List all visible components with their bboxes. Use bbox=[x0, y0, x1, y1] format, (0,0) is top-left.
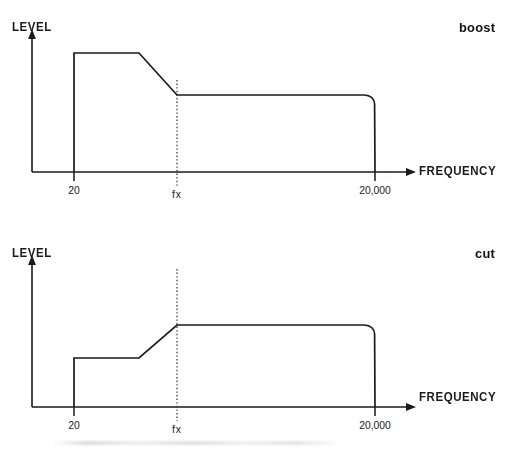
x-axis-boost bbox=[32, 168, 416, 176]
figure-boost: LEVEL FREQUENCY boost 20 fx 20,000 bbox=[0, 0, 508, 225]
y-axis-cut bbox=[28, 255, 36, 407]
tick-label-fx: fx bbox=[172, 423, 182, 435]
y-axis-boost bbox=[28, 29, 36, 172]
tick-label-fx: fx bbox=[172, 188, 182, 200]
x-axis-cut bbox=[32, 403, 416, 411]
boost-mode-label: boost bbox=[459, 20, 495, 35]
cut-response-curve bbox=[74, 325, 375, 407]
figure-cut: LEVEL FREQUENCY cut 20 fx 20,000 bbox=[0, 226, 508, 451]
y-axis-label: LEVEL bbox=[12, 20, 52, 34]
x-axis-label: FREQUENCY bbox=[419, 164, 496, 178]
y-axis-label: LEVEL bbox=[12, 246, 52, 260]
tick-label-20: 20 bbox=[68, 184, 80, 196]
cut-mode-label: cut bbox=[475, 246, 495, 261]
x-axis-label: FREQUENCY bbox=[419, 390, 496, 404]
boost-response-curve bbox=[74, 53, 375, 172]
x-axis-ticks-boost bbox=[74, 172, 375, 181]
tick-label-20000: 20,000 bbox=[359, 184, 391, 196]
tick-label-20000: 20,000 bbox=[359, 419, 391, 431]
tick-label-20: 20 bbox=[68, 419, 80, 431]
cut-chart-plot bbox=[0, 226, 508, 451]
x-axis-ticks-cut bbox=[74, 407, 375, 416]
